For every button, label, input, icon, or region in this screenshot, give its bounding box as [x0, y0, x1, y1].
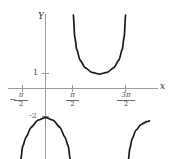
- curve-branch-lower-right: [128, 121, 150, 159]
- plot-svg: [0, 0, 171, 159]
- y-tick-label-1: 1: [33, 69, 38, 77]
- denominator: 2: [14, 101, 28, 108]
- y-tick-label-minus-2: -2: [29, 112, 37, 120]
- y-axis-label: Y: [38, 12, 44, 21]
- denominator: 2: [66, 101, 79, 108]
- x-tick-label-half-pi: π 2: [66, 92, 79, 108]
- denominator: 2: [117, 101, 135, 108]
- x-axis-label: x: [160, 82, 165, 91]
- numerator: π: [66, 92, 79, 99]
- x-tick-label-neg-half-pi: − π 2: [14, 92, 28, 108]
- numerator: π: [14, 92, 28, 99]
- curve-branch-upper-middle: [73, 15, 125, 74]
- curve-group: [19, 15, 149, 159]
- x-tick-label-three-half-pi: 3π 2: [117, 92, 135, 108]
- function-graph-figure: Y x 1 -2 − π 2 π 2 3π 2: [0, 0, 171, 159]
- numerator: 3π: [117, 92, 135, 99]
- minus-sign: −: [9, 96, 16, 104]
